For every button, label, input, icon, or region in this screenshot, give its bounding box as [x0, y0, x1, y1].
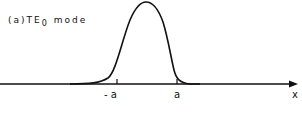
x-axis-arrow-icon [289, 81, 298, 88]
te0-mode-diagram: (a)TE0 mode - a a x [0, 0, 302, 124]
x-axis-label: x [292, 89, 298, 100]
figure-title: (a)TE0 mode [8, 15, 87, 28]
tick-label-pos-a: a [174, 89, 180, 100]
mode-profile-curve [70, 2, 200, 84]
tick-label-neg-a: - a [104, 89, 117, 100]
